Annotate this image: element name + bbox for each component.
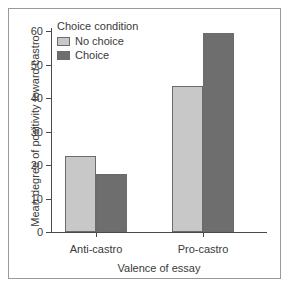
legend-title: Choice condition	[57, 20, 172, 32]
legend-label-no-choice: No choice	[75, 35, 124, 47]
bar-no-choice-pro-castro	[172, 86, 203, 232]
y-tick-0	[46, 232, 51, 233]
y-axis-title: Mean degree of positivity toward castro	[29, 16, 41, 246]
legend-item-choice: Choice	[57, 49, 172, 61]
bar-no-choice-anti-castro	[65, 156, 96, 232]
y-axis-line	[51, 28, 52, 233]
y-tick-10	[46, 199, 51, 200]
legend: Choice condition No choice Choice	[57, 20, 172, 63]
legend-item-no-choice: No choice	[57, 35, 172, 47]
legend-swatch-no-choice	[57, 37, 70, 46]
legend-swatch-choice	[57, 51, 70, 60]
bar-choice-anti-castro	[96, 174, 127, 232]
y-tick-40	[46, 98, 51, 99]
y-tick-30	[46, 132, 51, 133]
y-tick-20	[46, 165, 51, 166]
x-tick-pro-castro	[203, 232, 204, 237]
y-tick-60	[46, 31, 51, 32]
x-tick-label-pro-castro: Pro-castro	[158, 243, 248, 255]
y-tick-50	[46, 65, 51, 66]
bar-chart-plot: 0 10 20 30 40 50 60 Mean degree of posit…	[0, 0, 291, 288]
x-axis-line	[51, 232, 267, 233]
x-tick-label-anti-castro: Anti-castro	[51, 243, 141, 255]
legend-label-choice: Choice	[75, 49, 109, 61]
figure-container: 0 10 20 30 40 50 60 Mean degree of posit…	[0, 0, 291, 288]
x-axis-title: Valence of essay	[51, 262, 267, 274]
x-tick-anti-castro	[96, 232, 97, 237]
bar-choice-pro-castro	[203, 33, 234, 232]
